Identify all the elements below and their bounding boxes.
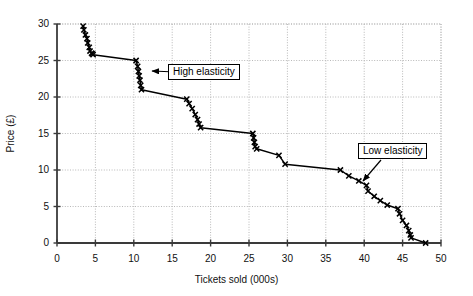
x-tick-label: 5 <box>80 254 110 264</box>
x-tick-label: 40 <box>349 254 379 264</box>
x-tick-label: 20 <box>196 254 226 264</box>
y-tick-label: 30 <box>17 19 49 29</box>
y-axis-title: Price (£) <box>5 104 16 164</box>
high-elasticity-callout: High elasticity <box>168 64 240 80</box>
y-tick-label: 15 <box>17 129 49 139</box>
x-axis-title: Tickets sold (000s) <box>0 274 473 285</box>
y-tick-label: 5 <box>17 202 49 212</box>
y-tick-label: 25 <box>17 56 49 66</box>
y-tick-label: 20 <box>17 92 49 102</box>
data-point-markers <box>81 24 429 246</box>
low-elasticity-callout: Low elasticity <box>358 143 427 159</box>
y-tick-label: 0 <box>17 238 49 248</box>
annotation-arrows <box>152 71 381 181</box>
x-tick-label: 15 <box>157 254 187 264</box>
x-tick-label: 30 <box>272 254 302 264</box>
x-tick-label: 0 <box>42 254 72 264</box>
x-tick-label: 50 <box>426 254 456 264</box>
y-tick-label: 10 <box>17 165 49 175</box>
chart-figure: 30252015105005101520253035404550 Price (… <box>0 0 473 296</box>
x-tick-label: 45 <box>388 254 418 264</box>
x-tick-label: 25 <box>234 254 264 264</box>
x-tick-label: 35 <box>311 254 341 264</box>
x-tick-label: 10 <box>119 254 149 264</box>
